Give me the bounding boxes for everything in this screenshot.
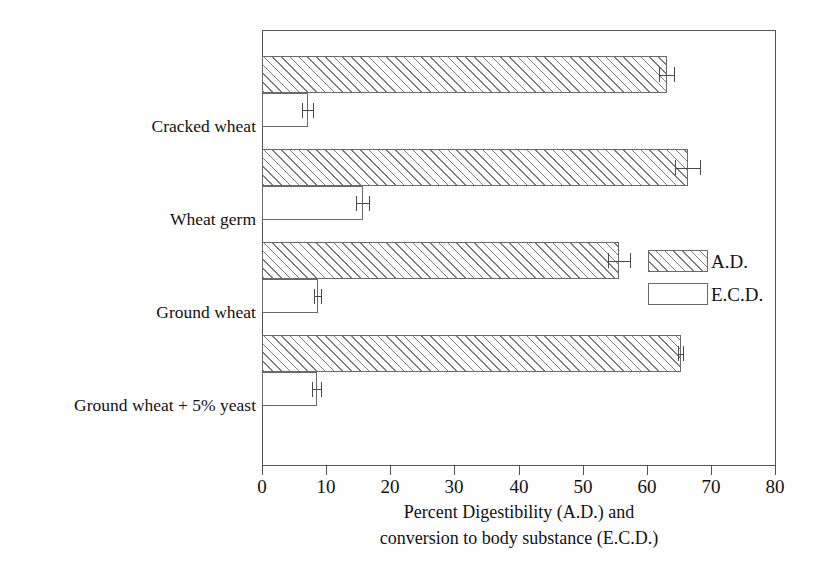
errorbar-cap-left	[302, 103, 303, 118]
x-ticklabel-1: 10	[317, 477, 336, 496]
x-tick-0	[262, 466, 263, 475]
x-ticklabel-8: 80	[766, 477, 785, 496]
errorbar-cap-left	[659, 67, 660, 82]
legend: A.D. E.C.D.	[648, 247, 772, 313]
bar-ad-ground-wheat-yeast	[262, 335, 681, 372]
errorbar-cap-left	[675, 160, 676, 175]
category-axis-labels: Cracked wheat Wheat germ Ground wheat Gr…	[0, 30, 256, 466]
errorbar-cap-right	[700, 160, 701, 175]
x-ticklabel-4: 40	[510, 477, 529, 496]
category-label-3: Ground wheat + 5% yeast	[74, 397, 256, 415]
bar-ecd-ground-wheat-yeast	[262, 372, 317, 406]
errorbar-cap-left	[314, 289, 315, 304]
errorbar-cap-right	[683, 346, 684, 361]
legend-item-ad: A.D.	[648, 247, 772, 275]
x-tick-3	[454, 466, 455, 475]
category-label-0: Cracked wheat	[152, 118, 256, 136]
legend-label-ecd: E.C.D.	[711, 285, 763, 304]
errorbar-cap-right	[321, 382, 322, 397]
x-tick-2	[390, 466, 391, 475]
x-ticklabel-3: 30	[445, 477, 464, 496]
errorbar-cap-left	[356, 196, 357, 211]
bar-ecd-ground-wheat	[262, 279, 318, 313]
x-ticklabel-5: 50	[574, 477, 593, 496]
bar-ad-cracked-wheat	[262, 56, 667, 93]
x-ticklabel-7: 70	[702, 477, 721, 496]
x-tick-1	[326, 466, 327, 475]
legend-swatch-ecd-icon	[648, 283, 708, 305]
legend-item-ecd: E.C.D.	[648, 280, 772, 308]
category-label-1: Wheat germ	[170, 211, 256, 229]
x-ticklabel-2: 20	[381, 477, 400, 496]
bar-ad-wheat-germ	[262, 149, 688, 186]
errorbar-cap-right	[674, 67, 675, 82]
bar-ecd-wheat-germ	[262, 186, 363, 220]
x-tick-4	[519, 466, 520, 475]
errorbar-cap-left	[608, 253, 609, 268]
legend-swatch-ad-icon	[648, 250, 708, 272]
errorbar-cap-left	[312, 382, 313, 397]
errorbar-cap-right	[369, 196, 370, 211]
errorbar-line	[659, 75, 675, 76]
errorbar-cap-right	[321, 289, 322, 304]
legend-label-ad: A.D.	[711, 252, 748, 271]
category-label-2: Ground wheat	[156, 304, 256, 322]
x-axis-title-line-2: conversion to body substance (E.C.D.)	[262, 526, 776, 552]
x-tick-6	[647, 466, 648, 475]
errorbar-cap-right	[630, 253, 631, 268]
errorbar-line	[608, 261, 631, 262]
errorbar-line	[675, 168, 701, 169]
x-axis-title-line-1: Percent Digestibility (A.D.) and	[262, 500, 776, 526]
x-tick-7	[711, 466, 712, 475]
x-tick-8	[775, 466, 776, 475]
errorbar-cap-left	[678, 346, 679, 361]
x-ticklabel-6: 60	[638, 477, 657, 496]
x-axis-title: Percent Digestibility (A.D.) and convers…	[262, 500, 776, 551]
x-ticklabel-0: 0	[257, 477, 267, 496]
bar-ad-ground-wheat	[262, 242, 619, 279]
bar-chart-figure: Cracked wheat Wheat germ Ground wheat Gr…	[0, 0, 825, 565]
errorbar-cap-right	[313, 103, 314, 118]
x-tick-5	[583, 466, 584, 475]
